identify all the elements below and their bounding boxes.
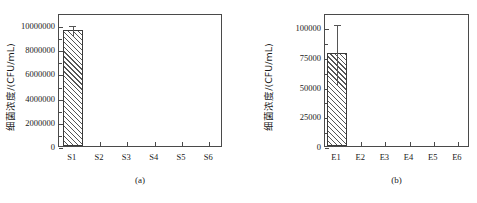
- x-tick-label-e2: E2: [356, 152, 365, 162]
- panel-caption-a: (a): [135, 175, 145, 185]
- y-tick-minor: [59, 63, 62, 64]
- error-bar-cap-top: [69, 26, 76, 27]
- x-tick: [100, 142, 101, 146]
- panel-caption-b: (b): [391, 175, 402, 185]
- y-tick-major: [59, 148, 63, 149]
- x-tick: [434, 142, 435, 146]
- y-axis-tick-labels-b: 0250005000075000100000: [276, 0, 324, 203]
- y-tick-minor: [59, 112, 62, 113]
- plot-area-b: [324, 14, 469, 147]
- y-tick-label: 25000: [300, 112, 321, 122]
- x-tick-label-s2: S2: [95, 152, 104, 162]
- plot-area-a: [58, 14, 222, 147]
- x-tick: [385, 142, 386, 146]
- y-tick-label: 8000000: [25, 45, 55, 55]
- y-tick-minor: [59, 39, 62, 40]
- y-tick-major: [59, 27, 63, 28]
- x-tick-label-e3: E3: [380, 152, 389, 162]
- x-tick: [127, 142, 128, 146]
- x-tick-label-e4: E4: [404, 152, 413, 162]
- y-tick-minor: [59, 136, 62, 137]
- y-tick-label: 100000: [296, 23, 322, 33]
- y-tick-label: 50000: [300, 83, 321, 93]
- figure-container: 细菌浓度/(CFU/mL) 02000000400000060000008000…: [0, 0, 477, 203]
- y-tick-label: 6000000: [25, 69, 55, 79]
- y-tick-major: [325, 148, 329, 149]
- error-bar-e1: [337, 25, 338, 86]
- x-tick-label-e1: E1: [331, 152, 340, 162]
- x-tick: [361, 142, 362, 146]
- y-tick-label: 4000000: [25, 94, 55, 104]
- y-tick-label: 10000000: [21, 21, 55, 31]
- x-tick-label-s4: S4: [149, 152, 158, 162]
- x-tick: [155, 142, 156, 146]
- y-axis-tick-labels-a: 0200000040000006000000800000010000000: [14, 0, 58, 203]
- x-tick-label-e6: E6: [452, 152, 461, 162]
- x-tick: [209, 142, 210, 146]
- x-tick-label-e5: E5: [428, 152, 437, 162]
- x-tick-label-s5: S5: [177, 152, 186, 162]
- x-tick: [458, 142, 459, 146]
- bar-s1: [63, 30, 83, 146]
- y-axis-title-b: 细菌浓度/(CFU/mL): [261, 43, 275, 130]
- error-bar-s1: [73, 26, 74, 37]
- y-tick-major: [325, 29, 329, 30]
- chart-panel-b: 细菌浓度/(CFU/mL) 0250005000075000100000 E1E…: [236, 0, 477, 203]
- y-tick-minor: [325, 44, 328, 45]
- y-tick-label: 2000000: [25, 118, 55, 128]
- x-tick-label-s1: S1: [67, 152, 76, 162]
- y-axis-title-container-b: 细菌浓度/(CFU/mL): [260, 12, 276, 162]
- x-tick: [410, 142, 411, 146]
- y-tick-label: 75000: [300, 53, 321, 63]
- chart-panel-a: 细菌浓度/(CFU/mL) 02000000400000060000008000…: [0, 0, 240, 203]
- error-bar-cap-top: [334, 25, 341, 26]
- x-tick-label-s6: S6: [204, 152, 213, 162]
- y-tick-label: 0: [317, 142, 321, 152]
- x-tick: [182, 142, 183, 146]
- y-tick-label: 0: [51, 142, 55, 152]
- y-tick-minor: [59, 88, 62, 89]
- x-tick-label-s3: S3: [122, 152, 131, 162]
